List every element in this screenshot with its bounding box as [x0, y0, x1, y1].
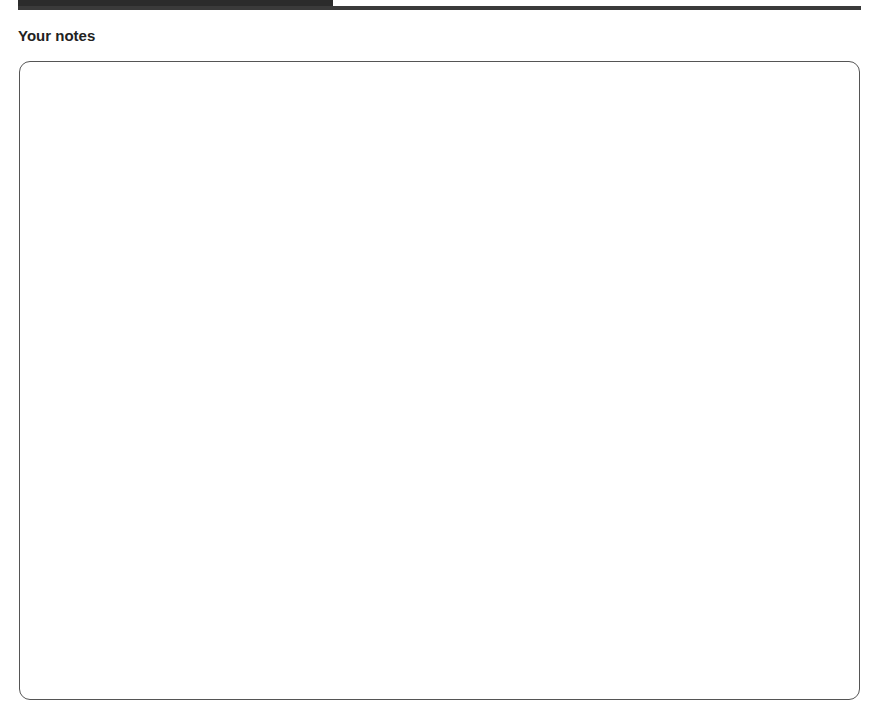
notes-heading: Your notes	[18, 27, 95, 44]
notes-area[interactable]	[19, 61, 860, 700]
header-divider	[18, 6, 861, 10]
